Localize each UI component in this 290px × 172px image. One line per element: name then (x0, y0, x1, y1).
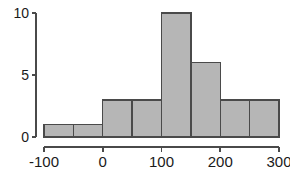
histogram-bar (191, 63, 220, 137)
x-axis-tick-label: 0 (99, 153, 107, 170)
bars-group (44, 13, 279, 137)
histogram-bar (250, 100, 279, 137)
histogram-bar (73, 125, 102, 137)
histogram-bar (103, 100, 132, 137)
histogram-bar (132, 100, 161, 137)
y-axis-tick-label: 0 (21, 129, 29, 145)
histogram-bar (220, 100, 249, 137)
x-axis-tick-label: 200 (208, 153, 233, 170)
histogram-chart: 0510-1000100200300 (0, 0, 290, 172)
histogram-bar (162, 13, 191, 137)
chart-canvas: 0510-1000100200300 (0, 0, 290, 172)
y-axis-tick-label: 10 (13, 5, 29, 21)
x-axis-tick-label: -100 (29, 153, 59, 170)
axes-group: 0510-1000100200300 (13, 5, 290, 170)
y-axis-tick-label: 5 (21, 67, 29, 83)
histogram-bar (44, 125, 73, 137)
x-axis-tick-label: 300 (266, 153, 290, 170)
x-axis-tick-label: 100 (149, 153, 174, 170)
